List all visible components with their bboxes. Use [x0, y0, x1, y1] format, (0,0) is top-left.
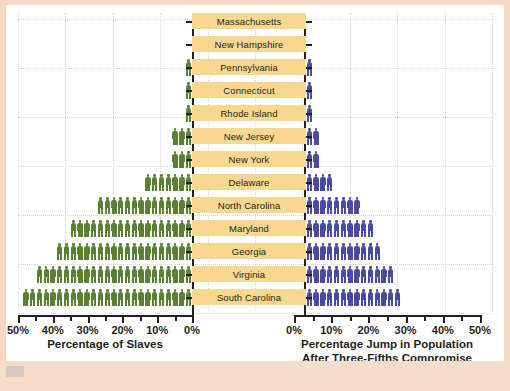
person-pictogram	[179, 151, 185, 168]
axis-tick-major	[88, 315, 90, 323]
person-pictogram	[327, 197, 333, 214]
state-label-text: Maryland	[229, 223, 269, 234]
person-pictogram	[50, 266, 56, 283]
state-label-text: South Carolina	[217, 292, 281, 303]
axis-tick-label: 30%	[77, 324, 99, 336]
person-pictogram	[172, 220, 178, 237]
grid-line-vertical	[18, 13, 19, 311]
person-pictogram	[145, 243, 151, 260]
person-pictogram	[313, 128, 319, 145]
state-label-text: Massachusetts	[217, 16, 282, 27]
chart-canvas: MassachusettsNew HampshirePennsylvaniaCo…	[6, 5, 504, 361]
person-pictogram	[77, 220, 83, 237]
right-axis-title-line2: After Three-Fifths Compromise	[279, 352, 495, 362]
axis-tick-label: 50%	[7, 324, 29, 336]
pictogram-row-right	[306, 242, 381, 260]
category-tick-left	[186, 136, 192, 138]
person-pictogram	[97, 289, 103, 306]
axis-tick-label: 30%	[395, 324, 417, 336]
person-pictogram	[347, 197, 353, 214]
person-pictogram	[118, 266, 124, 283]
person-pictogram	[145, 266, 151, 283]
person-pictogram	[152, 289, 158, 306]
category-tick-right	[306, 44, 312, 46]
state-label-text: Georgia	[232, 246, 267, 257]
person-pictogram	[354, 243, 360, 260]
person-pictogram	[64, 289, 70, 306]
person-pictogram	[64, 243, 70, 260]
person-pictogram	[138, 266, 144, 283]
person-pictogram	[91, 220, 97, 237]
person-pictogram	[70, 220, 76, 237]
person-pictogram	[43, 289, 49, 306]
axis-tick-major	[157, 315, 159, 323]
person-pictogram	[172, 197, 178, 214]
person-pictogram	[374, 289, 380, 306]
axis-tick-major	[331, 315, 333, 323]
axis-tick-major	[53, 315, 55, 323]
person-pictogram	[145, 289, 151, 306]
person-pictogram	[111, 220, 117, 237]
person-pictogram	[57, 243, 63, 260]
axis-tick-label: 20%	[357, 324, 379, 336]
person-pictogram	[313, 243, 319, 260]
right-axis-title-line1: Percentage Jump in Population	[279, 338, 495, 352]
person-pictogram	[84, 289, 90, 306]
pictogram-row-left	[145, 173, 192, 191]
person-pictogram	[334, 243, 340, 260]
axis-tick-major	[18, 315, 20, 323]
person-pictogram	[179, 174, 185, 191]
category-tick-left	[186, 274, 192, 276]
person-pictogram	[91, 289, 97, 306]
pictogram-row-right	[306, 288, 401, 306]
person-pictogram	[111, 266, 117, 283]
person-pictogram	[23, 289, 29, 306]
axis-tick-minor	[70, 315, 72, 321]
axis-tick-label: 10%	[320, 324, 342, 336]
person-pictogram	[152, 266, 158, 283]
axis-tick-major	[122, 315, 124, 323]
person-pictogram	[313, 197, 319, 214]
category-tick-right	[306, 67, 312, 69]
person-pictogram	[347, 220, 353, 237]
person-pictogram	[354, 220, 360, 237]
category-tick-left	[186, 251, 192, 253]
person-pictogram	[158, 220, 164, 237]
person-pictogram	[165, 220, 171, 237]
category-tick-right	[306, 297, 312, 299]
person-pictogram	[131, 197, 137, 214]
person-pictogram	[347, 243, 353, 260]
person-pictogram	[172, 174, 178, 191]
person-pictogram	[340, 266, 346, 283]
person-pictogram	[374, 266, 380, 283]
category-tick-right	[306, 90, 312, 92]
person-pictogram	[179, 289, 185, 306]
state-label-band: Massachusetts	[192, 13, 306, 29]
category-tick-right	[306, 274, 312, 276]
pictogram-row-left	[36, 265, 192, 283]
category-tick-right	[306, 182, 312, 184]
person-pictogram	[125, 243, 131, 260]
person-pictogram	[367, 220, 373, 237]
category-tick-right	[306, 251, 312, 253]
axis-tick-minor	[35, 315, 37, 321]
category-tick-left	[186, 297, 192, 299]
person-pictogram	[97, 220, 103, 237]
person-pictogram	[125, 197, 131, 214]
person-pictogram	[158, 197, 164, 214]
person-pictogram	[131, 220, 137, 237]
axis-tick-minor	[175, 315, 177, 321]
person-pictogram	[179, 266, 185, 283]
state-label-text: Delaware	[229, 177, 270, 188]
category-tick-left	[186, 90, 192, 92]
pictogram-row-right	[306, 219, 374, 237]
person-pictogram	[77, 289, 83, 306]
person-pictogram	[138, 243, 144, 260]
person-pictogram	[367, 289, 373, 306]
person-pictogram	[327, 220, 333, 237]
axis-tick-label: 20%	[111, 324, 133, 336]
axis-tick-label: 0%	[184, 324, 200, 336]
person-pictogram	[152, 174, 158, 191]
person-pictogram	[145, 174, 151, 191]
person-pictogram	[374, 243, 380, 260]
